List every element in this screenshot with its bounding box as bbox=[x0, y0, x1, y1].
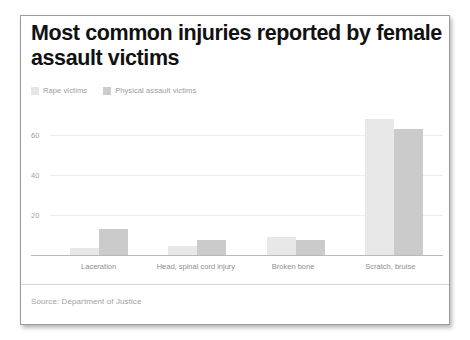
x-label-laceration: Laceration bbox=[50, 261, 147, 272]
bar-rape-victims[interactable] bbox=[168, 246, 197, 255]
bar-group-head-spinal-cord-injury bbox=[148, 111, 246, 255]
x-axis-line bbox=[31, 255, 443, 256]
y-tick-label-60: 60 bbox=[31, 131, 48, 140]
x-label-head-spinal-cord-injury: Head, spinal cord injury bbox=[147, 261, 244, 272]
bar-rape-victims[interactable] bbox=[365, 119, 394, 255]
bar-groups bbox=[50, 111, 443, 255]
chart-card: Most common injuries reported by female … bbox=[20, 15, 450, 325]
bar-rape-victims[interactable] bbox=[267, 237, 296, 255]
bar-physical-assault-victims[interactable] bbox=[394, 129, 423, 255]
y-tick-label-40: 40 bbox=[31, 171, 48, 180]
legend-item-rape-victims[interactable]: Rape victims bbox=[31, 86, 87, 95]
x-axis-labels: Laceration Head, spinal cord injury Brok… bbox=[50, 261, 439, 272]
x-label-scratch-bruise: Scratch, bruise bbox=[342, 261, 439, 272]
legend-label: Rape victims bbox=[43, 86, 87, 95]
legend-swatch-icon bbox=[103, 87, 111, 95]
source-note: Source: Department of Justice bbox=[31, 297, 142, 306]
legend-label: Physical assault victims bbox=[115, 86, 196, 95]
source-divider bbox=[21, 284, 449, 285]
chart-legend: Rape victims Physical assault victims bbox=[31, 86, 196, 95]
bar-group-laceration bbox=[50, 111, 148, 255]
legend-item-physical-assault-victims[interactable]: Physical assault victims bbox=[103, 86, 196, 95]
x-label-broken-bone: Broken bone bbox=[245, 261, 342, 272]
bar-group-broken-bone bbox=[247, 111, 345, 255]
bar-rape-victims[interactable] bbox=[70, 248, 99, 255]
bar-group-scratch-bruise bbox=[345, 111, 443, 255]
bar-physical-assault-victims[interactable] bbox=[197, 240, 226, 255]
bar-physical-assault-victims[interactable] bbox=[99, 229, 128, 255]
legend-swatch-icon bbox=[31, 87, 39, 95]
page-title: Most common injuries reported by female … bbox=[31, 21, 443, 72]
bar-physical-assault-victims[interactable] bbox=[296, 240, 325, 255]
y-tick-label-20: 20 bbox=[31, 211, 48, 220]
screenshot-root: Most common injuries reported by female … bbox=[0, 0, 470, 340]
plot-area: 60 40 20 bbox=[31, 111, 443, 256]
